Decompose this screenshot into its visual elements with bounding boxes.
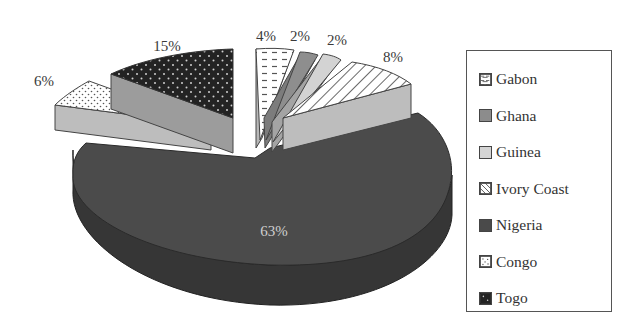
legend-item-guinea: Guinea — [467, 134, 611, 171]
label-ivory-coast: 8% — [383, 49, 403, 65]
legend-label: Togo — [496, 289, 528, 307]
legend-item-congo: Congo — [467, 244, 611, 281]
ghana-swatch-icon — [479, 109, 492, 122]
gabon-swatch-icon — [479, 73, 492, 86]
legend-item-ivory-coast: Ivory Coast — [467, 171, 611, 208]
legend-item-togo: Togo — [467, 280, 611, 317]
label-togo: 15% — [153, 38, 181, 54]
slice-nigeria: 63% — [73, 113, 452, 305]
legend-item-gabon: Gabon — [467, 61, 611, 98]
legend-item-nigeria: Nigeria — [467, 207, 611, 244]
congo-swatch-icon — [479, 255, 492, 268]
nigeria-swatch-icon — [479, 219, 492, 232]
label-gabon: 4% — [256, 28, 276, 44]
legend-label: Ghana — [496, 107, 536, 125]
legend-label: Ivory Coast — [496, 180, 569, 198]
label-ghana: 2% — [290, 28, 310, 44]
togo-swatch-icon — [479, 292, 492, 305]
chart-legend: Gabon Ghana Guinea Ivory Coast Nigeria C… — [466, 50, 612, 312]
legend-item-ghana: Ghana — [467, 98, 611, 135]
ivory-coast-swatch-icon — [479, 182, 492, 195]
legend-label: Gabon — [496, 70, 537, 88]
legend-label: Nigeria — [496, 216, 542, 234]
legend-label: Congo — [496, 253, 537, 271]
legend-label: Guinea — [496, 143, 541, 161]
guinea-swatch-icon — [479, 146, 492, 159]
label-congo: 6% — [34, 73, 54, 89]
label-guinea: 2% — [327, 32, 347, 48]
label-nigeria: 63% — [260, 223, 288, 239]
